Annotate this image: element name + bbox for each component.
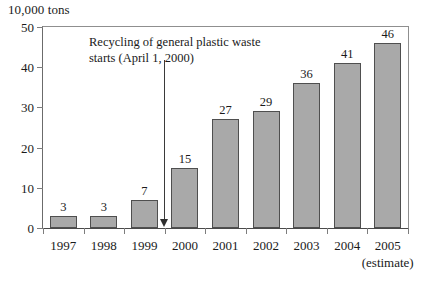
x-axis-tick-label: 2000: [172, 239, 198, 254]
bar-value-label: 46: [381, 28, 394, 41]
bar-value-label: 15: [179, 152, 192, 165]
bar: [334, 63, 361, 228]
x-axis-tick: [165, 228, 166, 234]
annotation-leader-line: [164, 60, 165, 220]
bar: [253, 111, 280, 228]
x-axis-tick-label: 2005: [375, 239, 401, 254]
x-axis-sub-label: (estimate): [362, 256, 414, 271]
chart-figure: 10,000 tons 0102030405031997319987199915…: [0, 0, 424, 281]
y-axis-tick: [37, 107, 43, 108]
annotation-label: Recycling of general plastic waste start…: [89, 34, 260, 67]
x-axis-tick: [286, 228, 287, 234]
x-axis-tick-label: 2001: [213, 239, 239, 254]
bar: [171, 168, 198, 228]
x-axis-tick: [124, 228, 125, 234]
y-axis-tick-label: 20: [21, 141, 34, 154]
x-axis-tick-label: 2004: [334, 239, 360, 254]
y-axis-tick-label: 30: [21, 101, 34, 114]
x-axis-tick-label: 1998: [91, 239, 117, 254]
bar: [50, 216, 77, 228]
bar: [374, 43, 401, 228]
y-axis-unit-caption: 10,000 tons: [8, 2, 70, 18]
bar-value-label: 3: [101, 200, 107, 213]
bar-value-label: 7: [141, 184, 147, 197]
x-axis-tick: [246, 228, 247, 234]
y-axis-tick-label: 50: [21, 21, 34, 34]
x-axis-tick: [367, 228, 368, 234]
annotation-arrowhead-icon: [160, 219, 168, 227]
bar-value-label: 27: [219, 104, 232, 117]
x-axis-tick: [84, 228, 85, 234]
y-axis-tick-label: 0: [28, 222, 35, 235]
y-axis-tick-label: 10: [21, 181, 34, 194]
bar: [293, 83, 320, 228]
bar: [212, 119, 239, 228]
x-axis-tick-label: 2002: [253, 239, 279, 254]
bar-value-label: 41: [341, 48, 354, 61]
y-axis-tick: [37, 27, 43, 28]
x-axis-tick-label: 1999: [131, 239, 157, 254]
bar-value-label: 29: [260, 96, 273, 109]
y-axis-tick: [37, 67, 43, 68]
bar: [131, 200, 158, 228]
bar-value-label: 36: [300, 68, 313, 81]
bar: [90, 216, 117, 228]
y-axis-tick: [37, 148, 43, 149]
x-axis-tick-label: 1997: [50, 239, 76, 254]
x-axis-tick-label: 2003: [294, 239, 320, 254]
x-axis-tick: [408, 228, 409, 234]
x-axis-tick: [43, 228, 44, 234]
y-axis-tick-label: 40: [21, 61, 34, 74]
y-axis-tick: [37, 188, 43, 189]
bar-value-label: 3: [60, 200, 66, 213]
x-axis-tick: [205, 228, 206, 234]
x-axis-tick: [327, 228, 328, 234]
